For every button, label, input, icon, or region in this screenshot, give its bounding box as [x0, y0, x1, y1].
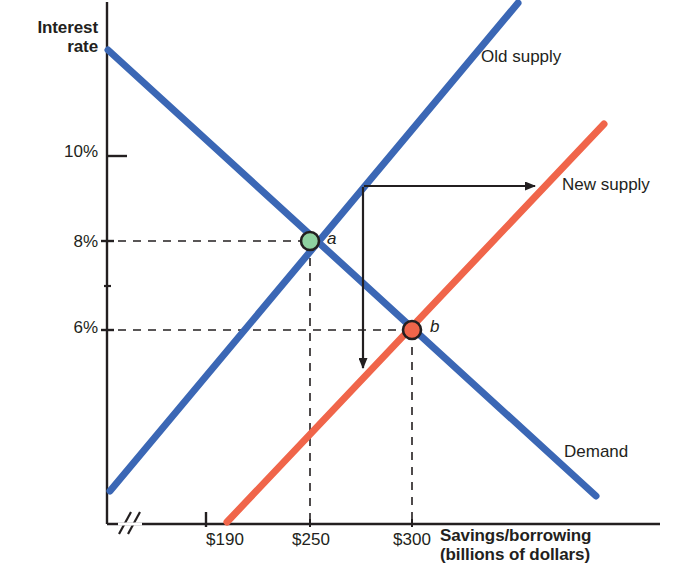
point-a-label: a [327, 229, 336, 248]
x-tick-label-250: $250 [266, 530, 356, 549]
supply-demand-chart: Interest rate Savings/borrowing (billion… [0, 0, 681, 572]
y-tick-label-8: 8% [50, 232, 98, 251]
chart-canvas [0, 0, 681, 572]
axis-break-icon [118, 512, 142, 534]
old-supply-label: Old supply [481, 47, 561, 66]
x-axis-title: Savings/borrowing (billions of dollars) [440, 526, 591, 564]
x-tick-label-300: $300 [367, 530, 457, 549]
point-b-label: b [430, 317, 439, 336]
new-supply-label: New supply [562, 175, 650, 194]
demand-curve [108, 50, 596, 496]
y-axis-title: Interest rate [6, 18, 98, 56]
y-tick-label-6: 6% [50, 318, 98, 337]
y-tick-label-10: 10% [50, 142, 98, 161]
demand-label: Demand [564, 442, 628, 461]
x-tick-label-190: $190 [180, 530, 270, 549]
equilibrium-point-b [403, 321, 421, 339]
equilibrium-point-a [301, 232, 319, 250]
